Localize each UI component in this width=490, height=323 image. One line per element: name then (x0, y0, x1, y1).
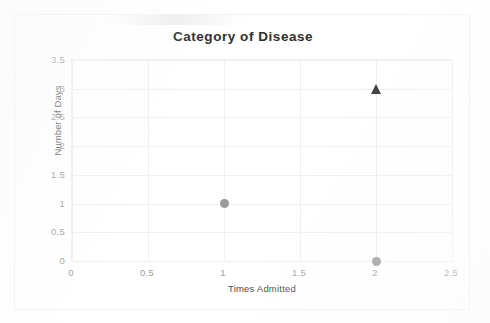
scan-smudge (105, 15, 245, 25)
gridline-horizontal (72, 89, 452, 90)
chart-title: Category of Disease (15, 29, 471, 44)
gridline-vertical (148, 60, 149, 261)
x-axis-tick-label: 1 (220, 267, 226, 278)
x-axis-tick-label: 2 (372, 267, 378, 278)
gridline-horizontal (72, 60, 452, 61)
x-axis-tick-label: 2.5 (444, 267, 458, 278)
x-axis-tick-labels: 00.511.522.5 (71, 267, 453, 281)
gridline-vertical (224, 60, 225, 261)
y-axis-tick-label: 0.5 (51, 226, 65, 237)
x-axis-tick-label: 0 (68, 267, 74, 278)
x-axis-title: Times Admitted (71, 283, 453, 294)
gridline-horizontal (72, 261, 452, 262)
gridline-vertical (72, 60, 73, 261)
x-axis-tick-label: 1.5 (292, 267, 306, 278)
y-axis-tick-label: 0 (59, 255, 65, 266)
gridline-horizontal (72, 232, 452, 233)
y-axis-title: Number of Days (52, 71, 63, 171)
gridline-horizontal (72, 175, 452, 176)
data-point-triangle[interactable] (371, 84, 381, 94)
data-point-circle[interactable] (220, 199, 229, 208)
plot-area[interactable] (71, 59, 453, 262)
y-axis-tick-label: 3.5 (51, 54, 65, 65)
gridline-vertical (300, 60, 301, 261)
gridline-horizontal (72, 117, 452, 118)
chart-frame[interactable]: Category of Disease 3.532.521.510.50 00.… (14, 14, 470, 310)
gridline-horizontal (72, 146, 452, 147)
data-point-circle[interactable] (372, 257, 381, 266)
gridline-horizontal (72, 204, 452, 205)
gridline-vertical (452, 60, 453, 261)
x-axis-tick-label: 0.5 (140, 267, 154, 278)
y-axis-tick-label: 1 (59, 197, 65, 208)
